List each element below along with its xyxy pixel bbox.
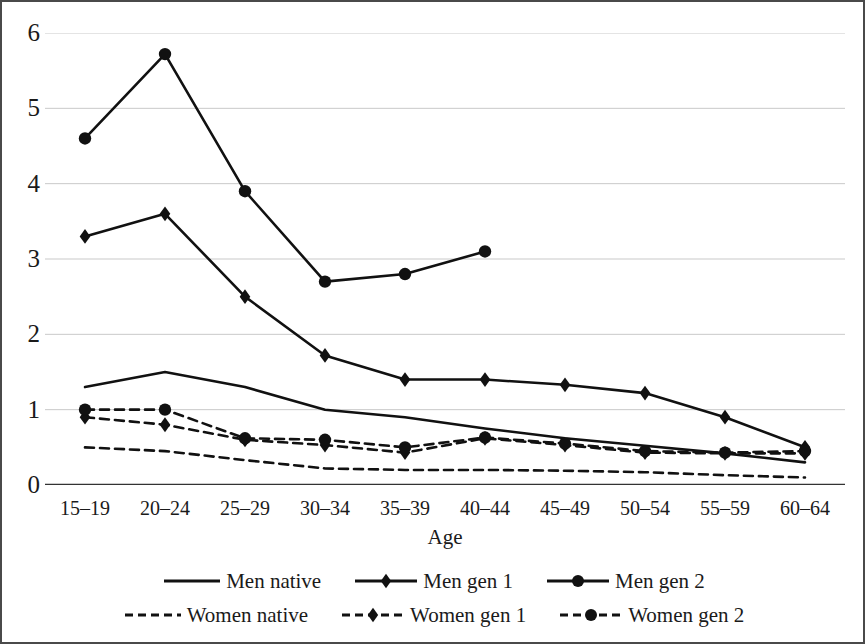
y-axis-tick-label: 6 bbox=[14, 20, 40, 45]
data-point-marker bbox=[160, 417, 171, 432]
legend-item-label: Men gen 2 bbox=[615, 571, 705, 592]
data-point-marker bbox=[719, 446, 731, 458]
x-axis-tick-label: 40–44 bbox=[445, 494, 525, 524]
legend-item-label: Women gen 1 bbox=[410, 605, 526, 626]
legend-swatch-circle-dashed bbox=[560, 605, 622, 625]
data-point-marker bbox=[239, 185, 251, 197]
x-axis-tick-label: 60–64 bbox=[765, 494, 845, 524]
x-axis-tick-label: 25–29 bbox=[205, 494, 285, 524]
data-point-marker bbox=[399, 268, 411, 280]
y-axis-tick-label: 5 bbox=[14, 95, 40, 120]
data-point-marker bbox=[399, 441, 411, 453]
data-point-marker bbox=[639, 445, 651, 457]
x-axis-tick-label: 15–19 bbox=[45, 494, 125, 524]
x-axis-tick-label: 35–39 bbox=[365, 494, 445, 524]
legend-swatch-circle-solid bbox=[547, 571, 609, 591]
series-line bbox=[85, 372, 805, 462]
data-point-marker bbox=[320, 348, 331, 363]
x-axis-tick-label: 50–54 bbox=[605, 494, 685, 524]
chart-legend: Men nativeMen gen 1Men gen 2Women native… bbox=[2, 564, 865, 632]
data-point-marker bbox=[80, 229, 91, 244]
legend-item-label: Women native bbox=[187, 605, 308, 626]
x-axis-tick-label: 20–24 bbox=[125, 494, 205, 524]
data-point-marker bbox=[400, 372, 411, 387]
data-point-marker bbox=[239, 432, 251, 444]
data-point-marker bbox=[79, 132, 91, 144]
y-axis-tick-label: 1 bbox=[14, 397, 40, 422]
data-point-marker bbox=[799, 445, 811, 457]
data-point-marker bbox=[479, 245, 491, 257]
plot-area bbox=[45, 33, 845, 485]
x-axis-title: Age bbox=[45, 525, 845, 550]
data-point-marker bbox=[159, 403, 171, 415]
legend-item-label: Men gen 1 bbox=[423, 571, 513, 592]
series-men-native bbox=[85, 372, 805, 462]
data-point-marker bbox=[79, 403, 91, 415]
legend-item-label: Women gen 2 bbox=[628, 605, 744, 626]
series-layer bbox=[79, 48, 811, 478]
legend-row: Women nativeWomen gen 1Women gen 2 bbox=[2, 598, 865, 632]
data-point-marker bbox=[559, 437, 571, 449]
legend-swatch-none-dashed bbox=[125, 605, 181, 625]
line-chart-svg bbox=[45, 33, 845, 485]
legend-item-women-gen-1[interactable]: Women gen 1 bbox=[342, 605, 526, 626]
y-axis-tick-label: 0 bbox=[14, 472, 40, 497]
data-point-marker bbox=[560, 377, 571, 392]
legend-row: Men nativeMen gen 1Men gen 2 bbox=[2, 564, 865, 598]
series-line bbox=[85, 214, 805, 448]
data-point-marker bbox=[640, 386, 651, 401]
x-axis-tick-label: 55–59 bbox=[685, 494, 765, 524]
data-point-marker bbox=[319, 275, 331, 287]
data-point-marker bbox=[479, 431, 491, 443]
data-point-marker bbox=[159, 48, 171, 60]
data-point-marker bbox=[319, 434, 331, 446]
chart-figure: 0123456 15–1920–2425–2930–3435–3940–4445… bbox=[0, 0, 865, 644]
legend-item-men-gen-1[interactable]: Men gen 1 bbox=[355, 571, 513, 592]
y-axis-tick-label: 4 bbox=[14, 171, 40, 196]
legend-item-label: Men native bbox=[226, 571, 321, 592]
legend-item-men-gen-2[interactable]: Men gen 2 bbox=[547, 571, 705, 592]
legend-swatch-diamond-dashed bbox=[342, 605, 404, 625]
x-axis-tick-label: 45–49 bbox=[525, 494, 605, 524]
legend-swatch-diamond-solid bbox=[355, 571, 417, 591]
legend-item-women-gen-2[interactable]: Women gen 2 bbox=[560, 605, 744, 626]
gridlines bbox=[45, 33, 845, 410]
data-point-marker bbox=[720, 410, 731, 425]
x-axis-tick-labels: 15–1920–2425–2930–3435–3940–4445–4950–54… bbox=[45, 494, 845, 524]
legend-item-men-native[interactable]: Men native bbox=[164, 571, 321, 592]
y-axis-tick-label: 2 bbox=[14, 321, 40, 346]
series-men-gen-2 bbox=[79, 48, 491, 288]
series-line bbox=[85, 54, 485, 282]
data-point-marker bbox=[480, 372, 491, 387]
legend-item-women-native[interactable]: Women native bbox=[125, 605, 308, 626]
y-axis-tick-label: 3 bbox=[14, 246, 40, 271]
legend-swatch-none-solid bbox=[164, 571, 220, 591]
x-axis-tick-label: 30–34 bbox=[285, 494, 365, 524]
